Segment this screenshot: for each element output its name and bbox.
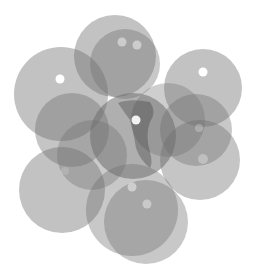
highlight-dot-hl-lower-1	[128, 183, 137, 192]
circle-lower-center-front	[104, 180, 188, 264]
highlight-dot-hl-right-lower	[198, 154, 208, 164]
highlight-dot-hl-right-mid	[195, 124, 203, 132]
highlight-dot-hl-top-1	[118, 38, 127, 47]
circle-layer	[14, 15, 242, 264]
artwork-canvas: Cluster of overlapping translucent gray …	[0, 0, 255, 274]
highlight-dot-hl-top-2	[133, 41, 142, 50]
highlight-dot-hl-left-faint	[61, 167, 69, 175]
highlight-dot-hl-upper-right	[199, 68, 208, 77]
overlapping-circles-artwork	[0, 0, 255, 274]
highlight-dot-hl-upper-left	[56, 75, 65, 84]
highlight-dot-hl-center	[132, 116, 141, 125]
highlight-dot-hl-lower-2	[143, 200, 152, 209]
